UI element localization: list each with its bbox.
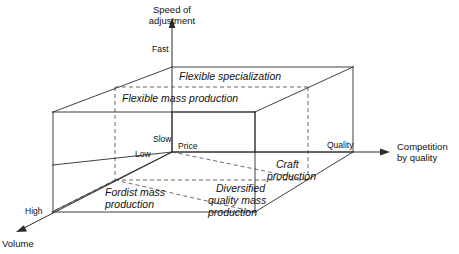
horizontal-axis-title-line2: by quality <box>397 152 437 163</box>
region-label-diversified-quality-mass-production-line3: production <box>207 206 257 218</box>
tick-label-price: Price <box>178 141 198 151</box>
region-label-craft-production-line1: Craft <box>276 158 300 170</box>
region-label-fordist-mass-production-line2: production <box>104 198 154 210</box>
region-label-fordist-mass-production-line1: Fordist mass <box>105 186 166 198</box>
horizontal-axis-arrowhead <box>380 149 390 156</box>
production-paradigms-diagram: Fast Slow Price Low Quality High Speed o… <box>0 0 459 254</box>
tick-label-quality: Quality <box>327 140 354 150</box>
tick-label-fast: Fast <box>152 44 169 54</box>
region-label-diversified-quality-mass-production-line1: Diversified <box>216 182 266 194</box>
edge-midplane-left <box>53 152 172 165</box>
region-label-flexible-specialization: Flexible specialization <box>179 70 281 82</box>
region-label-flexible-mass-production: Flexible mass production <box>122 92 238 104</box>
horizontal-axis-title-line1: Competition <box>397 141 448 152</box>
edge-top-left-rear <box>53 67 172 112</box>
region-label-craft-production-line2: production <box>266 170 316 182</box>
region-label-diversified-quality-mass-production-line2: quality mass <box>208 194 267 206</box>
region-labels: Flexible specialization Flexible mass pr… <box>104 70 316 218</box>
tick-label-slow: Slow <box>153 134 172 144</box>
tick-label-high: High <box>25 206 43 216</box>
depth-axis-title: Volume <box>2 238 34 249</box>
diagram-canvas: Fast Slow Price Low Quality High Speed o… <box>0 0 459 254</box>
depth-axis-arrowhead <box>16 225 27 232</box>
vertical-axis-title-line1: Speed of <box>153 4 191 15</box>
edge-bottom-right-receding <box>255 152 353 212</box>
vertical-axis-title-line2: adjustment <box>149 15 196 26</box>
tick-label-low: Low <box>135 149 151 159</box>
